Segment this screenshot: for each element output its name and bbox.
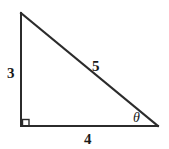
- triangle-figure: 3 5 4 θ: [0, 0, 169, 149]
- horizontal-side-label: 4: [84, 132, 92, 147]
- hypotenuse-label: 5: [92, 59, 100, 74]
- triangle-drawing: [0, 0, 169, 149]
- theta-angle-label: θ: [133, 111, 140, 125]
- vertical-side-label: 3: [7, 66, 15, 81]
